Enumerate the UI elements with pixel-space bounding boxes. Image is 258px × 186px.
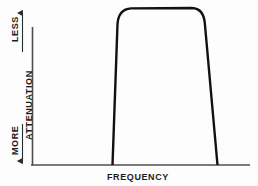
filter-response-figure: LESS ATTENUATION MORE FREQUENCY (0, 0, 258, 186)
x-axis-label: FREQUENCY (107, 173, 169, 182)
plot-area (0, 0, 258, 186)
y-axis-label-more: MORE (11, 126, 20, 155)
response-curve (113, 8, 218, 165)
y-axis-label: ATTENUATION (25, 70, 34, 140)
y-axis-label-less: LESS (11, 16, 20, 42)
